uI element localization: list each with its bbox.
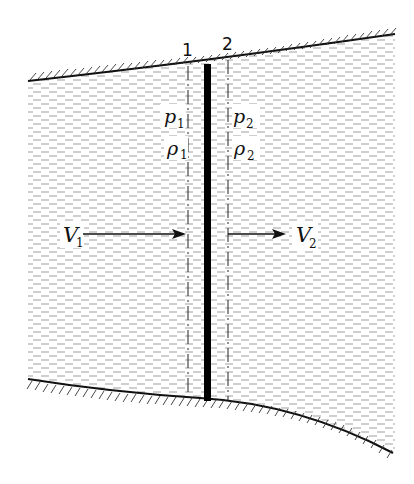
shock-wave <box>204 64 211 401</box>
p2-label: p <box>233 105 245 127</box>
svg-text:2: 2 <box>246 117 254 131</box>
svg-text:2: 2 <box>247 149 255 163</box>
shock-diagram: 1 2 p 1 ρ 1 p 2 ρ 2 V 1 V 2 <box>0 0 414 484</box>
svg-text:1: 1 <box>177 117 185 131</box>
station-1-label: 1 <box>182 40 193 60</box>
p1-label: p <box>164 105 176 127</box>
svg-text:1: 1 <box>76 236 84 250</box>
svg-text:2: 2 <box>309 237 317 251</box>
rho1-label: ρ <box>166 137 179 159</box>
svg-text:1: 1 <box>180 148 188 162</box>
station-2-label: 2 <box>222 34 233 54</box>
rho2-label: ρ <box>233 137 246 159</box>
